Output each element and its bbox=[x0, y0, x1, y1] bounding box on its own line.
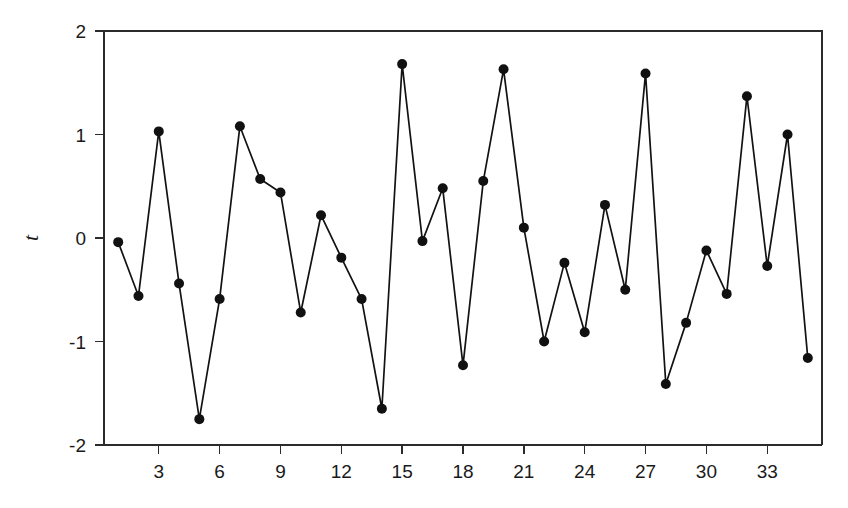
data-point bbox=[519, 223, 529, 233]
data-point bbox=[762, 261, 772, 271]
data-point bbox=[275, 187, 285, 197]
y-tick-label: 0 bbox=[75, 228, 86, 249]
x-tick-label: 24 bbox=[574, 461, 596, 482]
axis-titles: t bbox=[18, 234, 43, 241]
y-tick-label: -2 bbox=[69, 435, 86, 456]
data-point bbox=[620, 285, 630, 295]
data-point bbox=[783, 130, 793, 140]
data-point bbox=[641, 68, 651, 78]
x-tick-label: 3 bbox=[153, 461, 164, 482]
x-tick-label: 12 bbox=[331, 461, 352, 482]
data-point bbox=[113, 237, 123, 247]
data-point bbox=[701, 245, 711, 255]
data-point bbox=[580, 327, 590, 337]
data-point bbox=[417, 236, 427, 246]
data-point bbox=[397, 59, 407, 69]
y-tick-label: -1 bbox=[69, 332, 86, 353]
data-point bbox=[154, 126, 164, 136]
data-point bbox=[458, 360, 468, 370]
time-series-plot: 3691215182124273033 210-1-2 t bbox=[0, 0, 848, 508]
data-point bbox=[478, 176, 488, 186]
x-tick-label: 15 bbox=[392, 461, 413, 482]
x-tick-label: 6 bbox=[214, 461, 225, 482]
data-point bbox=[255, 174, 265, 184]
data-point bbox=[742, 91, 752, 101]
data-point bbox=[357, 294, 367, 304]
data-point bbox=[661, 379, 671, 389]
y-tick-label: 1 bbox=[75, 125, 86, 146]
data-point bbox=[336, 253, 346, 263]
x-tick-label: 18 bbox=[452, 461, 473, 482]
x-tick-label: 33 bbox=[757, 461, 778, 482]
y-tick-labels: 210-1-2 bbox=[69, 21, 86, 456]
data-point bbox=[600, 200, 610, 210]
data-point bbox=[174, 279, 184, 289]
data-point bbox=[215, 294, 225, 304]
data-point bbox=[681, 318, 691, 328]
series-markers bbox=[113, 59, 813, 424]
data-point bbox=[539, 337, 549, 347]
plot-box bbox=[104, 31, 822, 445]
x-tick-label: 30 bbox=[696, 461, 717, 482]
x-tick-label: 27 bbox=[635, 461, 656, 482]
data-point bbox=[803, 353, 813, 363]
y-axis-title: t bbox=[18, 234, 43, 241]
x-axis-ticks bbox=[159, 445, 767, 454]
y-axis-ticks bbox=[95, 31, 104, 445]
data-point bbox=[316, 210, 326, 220]
chart-figure: 3691215182124273033 210-1-2 t bbox=[0, 0, 848, 508]
x-tick-label: 9 bbox=[275, 461, 286, 482]
data-point bbox=[559, 258, 569, 268]
data-point bbox=[499, 64, 509, 74]
data-point bbox=[133, 291, 143, 301]
data-point bbox=[235, 121, 245, 131]
data-point bbox=[194, 414, 204, 424]
data-point bbox=[377, 404, 387, 414]
x-tick-label: 21 bbox=[513, 461, 534, 482]
y-tick-label: 2 bbox=[75, 21, 86, 42]
plot-frame bbox=[104, 31, 822, 445]
x-tick-labels: 3691215182124273033 bbox=[153, 461, 777, 482]
data-point bbox=[722, 289, 732, 299]
data-point bbox=[296, 308, 306, 318]
data-point bbox=[438, 183, 448, 193]
